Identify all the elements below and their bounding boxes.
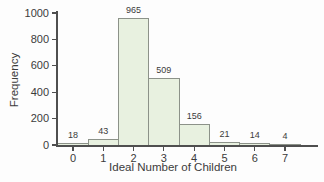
bar-value-label: 156 [178,111,210,121]
histogram-figure: Frequency Ideal Number of Children 02004… [0,0,324,182]
bar [148,78,179,145]
x-tick-label: 5 [209,152,239,164]
y-tick [52,118,57,119]
bar-value-label: 4 [269,131,301,141]
bar [179,124,210,145]
y-tick [52,65,57,66]
y-tick [52,144,57,145]
y-tick-label: 1000 [0,7,49,20]
y-tick-label: 800 [0,33,49,46]
x-tick [224,147,225,151]
y-tick [52,92,57,93]
bar-value-label: 43 [87,126,119,136]
bar-value-label: 21 [208,129,240,139]
x-tick-label: 6 [240,152,270,164]
x-tick [194,147,195,151]
y-tick [52,39,57,40]
x-axis-line [56,145,318,147]
y-tick-label: 0 [0,139,49,152]
plot-area [57,13,318,145]
x-tick-label: 4 [179,152,209,164]
x-tick-label: 3 [149,152,179,164]
x-tick-label: 7 [270,152,300,164]
x-tick [103,147,104,151]
y-tick-label: 600 [0,59,49,72]
x-tick [72,147,73,151]
x-tick [163,147,164,151]
y-tick-label: 400 [0,86,49,99]
bar [118,18,149,145]
bar-value-label: 14 [239,130,271,140]
x-tick [254,147,255,151]
x-tick-label: 0 [58,152,88,164]
x-tick [284,147,285,151]
bar-value-label: 509 [148,65,180,75]
x-tick [133,147,134,151]
bar-value-label: 965 [118,5,150,15]
x-tick-label: 2 [119,152,149,164]
y-tick [52,12,57,13]
y-tick-label: 200 [0,112,49,125]
bar-value-label: 18 [57,130,89,140]
x-tick-label: 1 [88,152,118,164]
y-axis-line [56,11,58,146]
